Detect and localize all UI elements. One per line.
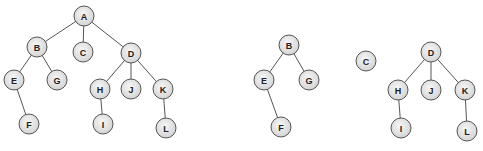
node-label: K <box>160 85 167 95</box>
node-label: G <box>305 76 312 86</box>
forest-nodes: BEGFCDHJKIL <box>254 35 477 141</box>
tree-node-a: A <box>74 6 94 26</box>
node-label: D <box>128 49 135 59</box>
tree-node-j: J <box>121 79 141 99</box>
forest-node-g: G <box>299 70 319 90</box>
tree-node-c: C <box>73 42 93 62</box>
forest-node-j: J <box>421 80 441 100</box>
forest-node-b: B <box>279 35 299 55</box>
node-label: E <box>11 76 17 86</box>
node-label: I <box>102 120 105 130</box>
node-label: H <box>395 86 402 96</box>
tree-node-g: G <box>47 70 67 90</box>
tree-node-l: L <box>156 118 176 138</box>
forest-node-e: E <box>254 70 274 90</box>
node-label: J <box>128 85 133 95</box>
tree-node-h: H <box>90 79 110 99</box>
forest-node-f: F <box>271 117 291 137</box>
tree-diagram: ABCDEGFHJKIL BEGFCDHJKIL <box>0 0 483 151</box>
node-label: C <box>363 57 370 67</box>
original-tree: ABCDEGFHJKIL <box>4 6 176 138</box>
node-label: A <box>81 12 88 22</box>
original-tree-nodes: ABCDEGFHJKIL <box>4 6 176 138</box>
tree-node-f: F <box>19 114 39 134</box>
node-label: G <box>53 76 60 86</box>
node-label: L <box>464 127 470 137</box>
tree-node-b: B <box>27 37 47 57</box>
node-label: K <box>462 86 469 96</box>
node-label: J <box>428 86 433 96</box>
node-label: F <box>26 120 32 130</box>
forest-node-i: I <box>391 118 411 138</box>
forest-after-root-removal: BEGFCDHJKIL <box>254 35 477 141</box>
node-label: B <box>34 43 41 53</box>
tree-node-d: D <box>121 43 141 63</box>
node-label: I <box>400 124 403 134</box>
tree-node-i: I <box>93 114 113 134</box>
node-label: D <box>428 48 435 58</box>
forest-node-d: D <box>421 42 441 62</box>
forest-node-c: C <box>356 51 376 71</box>
forest-node-h: H <box>388 80 408 100</box>
node-label: E <box>261 76 267 86</box>
node-label: F <box>278 123 284 133</box>
forest-node-k: K <box>455 80 475 100</box>
node-label: L <box>163 124 169 134</box>
forest-node-l: L <box>457 121 477 141</box>
node-label: C <box>80 48 87 58</box>
original-tree-edges <box>14 16 166 128</box>
node-label: B <box>286 41 293 51</box>
tree-node-k: K <box>153 79 173 99</box>
tree-node-e: E <box>4 70 24 90</box>
node-label: H <box>97 85 104 95</box>
